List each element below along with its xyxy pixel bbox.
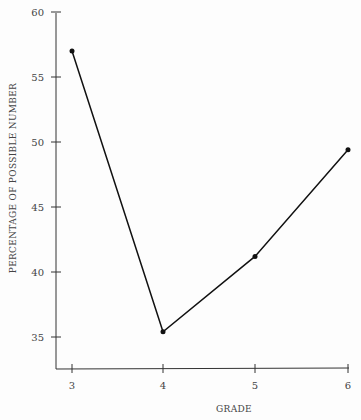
y-tick-label: 35 [31, 332, 44, 343]
x-tick-label: 5 [252, 380, 258, 391]
data-point [253, 254, 258, 259]
data-line [72, 51, 348, 332]
chart-container: 3540455055603456GRADEPERCENTAGE OF POSSI… [0, 0, 361, 420]
y-axis-title: PERCENTAGE OF POSSIBLE NUMBER [8, 83, 18, 273]
data-point [70, 49, 75, 54]
y-tick-label: 45 [31, 202, 44, 213]
data-point [161, 329, 166, 334]
x-tick-label: 4 [160, 380, 166, 391]
y-tick-label: 50 [31, 137, 44, 148]
y-tick-label: 55 [31, 72, 44, 83]
data-point [346, 147, 351, 152]
x-tick-label: 6 [345, 380, 351, 391]
line-chart: 3540455055603456GRADEPERCENTAGE OF POSSI… [0, 0, 361, 420]
x-tick-label: 3 [69, 380, 75, 391]
x-axis [56, 368, 349, 369]
y-tick-label: 60 [31, 7, 44, 18]
y-tick-label: 40 [31, 267, 44, 278]
x-axis-title: GRADE [216, 404, 252, 414]
